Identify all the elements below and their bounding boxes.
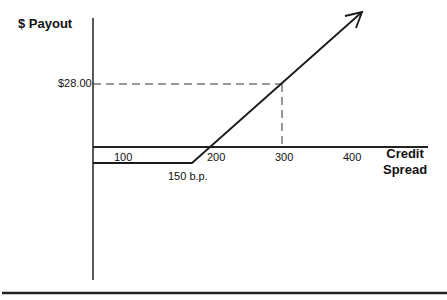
y-axis-label: $ Payout: [18, 16, 72, 31]
x-tick-100: 100: [114, 151, 132, 163]
chart-canvas: [0, 0, 447, 300]
kink-annotation: 150 b.p.: [168, 170, 208, 182]
x-tick-300: 300: [275, 151, 293, 163]
x-tick-400: 400: [343, 151, 361, 163]
x-axis-label-line2: Spread: [383, 162, 427, 178]
x-axis-label-line1: Credit: [383, 146, 427, 162]
y-annotation: $28.00: [58, 77, 92, 89]
x-tick-200: 200: [207, 151, 225, 163]
x-axis-label: Credit Spread: [383, 146, 427, 178]
payout-line: [93, 12, 362, 163]
